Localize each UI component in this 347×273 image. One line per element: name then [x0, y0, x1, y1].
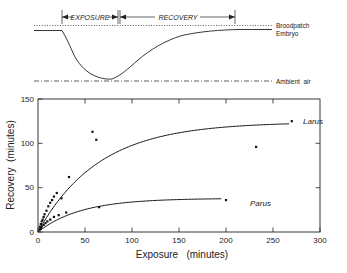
ambient-air-label: Ambient air — [276, 78, 312, 85]
data-point — [45, 210, 47, 212]
x-tick-label-300: 300 — [313, 236, 327, 245]
data-point — [60, 197, 62, 199]
top-panel: EXPOSURE RECOVERY Broodpatch Embryo Ambi… — [34, 10, 312, 85]
x-tick-label-50: 50 — [81, 236, 90, 245]
data-point — [49, 202, 51, 204]
data-point — [46, 220, 48, 222]
figure-root: EXPOSURE RECOVERY Broodpatch Embryo Ambi… — [0, 0, 347, 273]
embryo-temperature-curve — [34, 30, 272, 80]
x-tick-label-250: 250 — [266, 236, 280, 245]
recovery-arrow-right-icon — [229, 15, 235, 20]
recovery-bracket-label: RECOVERY — [158, 14, 198, 21]
data-point — [98, 206, 100, 208]
x-tick-label-100: 100 — [125, 236, 139, 245]
exposure-arrow-right-icon — [112, 15, 118, 20]
series-parus — [38, 199, 227, 232]
series-label-parus: Parus — [250, 199, 271, 208]
x-tick-label-200: 200 — [219, 236, 233, 245]
data-point — [47, 205, 49, 207]
series-larus — [38, 120, 293, 232]
data-point — [95, 139, 97, 141]
y-tick-label-50: 50 — [25, 183, 34, 192]
data-point — [51, 199, 53, 201]
data-point — [44, 222, 46, 224]
data-point — [91, 131, 93, 133]
data-point — [56, 192, 58, 194]
recovery-arrow-left-icon — [120, 15, 126, 20]
y-axis-tick-labels: 0 50 100 150 — [21, 95, 35, 237]
data-point — [49, 218, 51, 220]
y-axis-ticks — [38, 99, 320, 232]
data-point — [42, 218, 44, 220]
y-tick-label-100: 100 — [21, 139, 35, 148]
data-point — [291, 120, 293, 122]
data-point — [255, 146, 257, 148]
embryo-label: Embryo — [276, 30, 299, 38]
x-axis-title: Exposure (minutes) — [136, 249, 228, 260]
data-point — [65, 211, 67, 213]
fit-curve-larus — [38, 124, 289, 232]
data-point — [68, 176, 70, 178]
data-point — [41, 226, 43, 228]
data-point — [43, 216, 45, 218]
x-tick-label-150: 150 — [172, 236, 186, 245]
plot-frame — [38, 99, 320, 232]
fit-curve-parus — [38, 199, 221, 232]
y-axis-title: Recovery (minutes) — [5, 120, 16, 209]
scatter-plot-panel: 0 50 100 150 0 50 100 150 200 250 — [5, 95, 327, 260]
data-point — [225, 199, 227, 201]
data-point — [53, 216, 55, 218]
data-point — [43, 224, 45, 226]
recovery-bracket: RECOVERY — [120, 10, 235, 24]
exposure-bracket-label: EXPOSURE — [71, 14, 110, 21]
x-axis-ticks — [38, 99, 320, 232]
data-point — [43, 213, 45, 215]
data-series-layer — [38, 120, 293, 232]
data-point — [58, 214, 60, 216]
exposure-arrow-left-icon — [62, 15, 68, 20]
exposure-bracket: EXPOSURE — [62, 10, 118, 24]
y-tick-label-0: 0 — [30, 228, 35, 237]
data-point — [53, 195, 55, 197]
y-tick-label-150: 150 — [21, 95, 35, 104]
series-label-larus: Larus — [303, 117, 323, 126]
data-point — [40, 223, 42, 225]
x-axis-tick-labels: 0 50 100 150 200 250 300 — [36, 236, 327, 245]
x-tick-label-0: 0 — [36, 236, 41, 245]
